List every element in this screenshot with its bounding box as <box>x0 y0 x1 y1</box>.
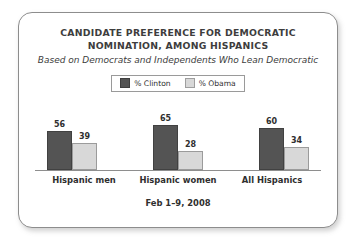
legend-item-clinton: % Clinton <box>120 78 170 88</box>
page-title: CANDIDATE PREFERENCE FOR DEMOCRATIC NOMI… <box>29 27 327 52</box>
bar-clinton <box>259 128 284 170</box>
bar-group-hispanic-men: 56 39 <box>47 98 97 170</box>
chart-title-line-1: CANDIDATE PREFERENCE FOR DEMOCRATIC <box>29 27 327 40</box>
chart-card: CANDIDATE PREFERENCE FOR DEMOCRATIC NOMI… <box>18 12 338 228</box>
bar-column-clinton: 60 <box>259 98 284 170</box>
bar-value-label: 56 <box>54 120 65 129</box>
category-label-hispanic-men: Hispanic men <box>37 175 131 185</box>
bar-column-obama: 28 <box>178 98 203 170</box>
bar-clinton <box>153 125 178 170</box>
bar-groups: 56 39 65 28 60 <box>35 98 321 170</box>
category-label-hispanic-women: Hispanic women <box>131 175 225 185</box>
bar-column-obama: 34 <box>284 98 309 170</box>
bar-column-clinton: 56 <box>47 98 72 170</box>
x-axis-baseline <box>35 170 321 171</box>
bar-obama <box>178 151 203 170</box>
bar-group-hispanic-women: 65 28 <box>153 98 203 170</box>
chart-subtitle: Based on Democrats and Independents Who … <box>29 55 327 66</box>
legend-label-clinton: % Clinton <box>134 79 170 88</box>
category-labels: Hispanic men Hispanic women All Hispanic… <box>35 175 321 185</box>
legend-swatch-clinton-icon <box>120 78 130 88</box>
chart-title-line-2: NOMINATION, AMONG HISPANICS <box>29 40 327 53</box>
plot-area: 56 39 65 28 60 <box>35 98 321 170</box>
survey-date-note: Feb 1–9, 2008 <box>19 198 337 208</box>
bar-value-label: 39 <box>79 132 90 141</box>
category-label-all-hispanics: All Hispanics <box>225 175 319 185</box>
legend-swatch-obama-icon <box>185 78 195 88</box>
bar-value-label: 34 <box>291 136 302 145</box>
bar-column-clinton: 65 <box>153 98 178 170</box>
bar-value-label: 65 <box>160 114 171 123</box>
legend-label-obama: % Obama <box>199 79 236 88</box>
legend-box: % Clinton % Obama <box>111 75 245 92</box>
bar-value-label: 28 <box>185 140 196 149</box>
bar-column-obama: 39 <box>72 98 97 170</box>
bar-clinton <box>47 131 72 170</box>
bar-obama <box>284 147 309 170</box>
title-block: CANDIDATE PREFERENCE FOR DEMOCRATIC NOMI… <box>19 27 337 66</box>
bar-group-all-hispanics: 60 34 <box>259 98 309 170</box>
legend: % Clinton % Obama <box>19 75 337 92</box>
bar-value-label: 60 <box>266 117 277 126</box>
legend-item-obama: % Obama <box>185 78 236 88</box>
bar-obama <box>72 143 97 170</box>
